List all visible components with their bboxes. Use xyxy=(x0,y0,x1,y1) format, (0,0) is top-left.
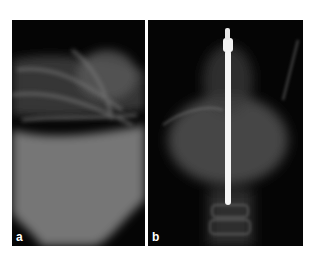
spinal-rod xyxy=(225,50,231,205)
panel-label-b: b xyxy=(152,231,159,243)
panel-label-a: a xyxy=(16,231,23,243)
radiograph-panel-b: b xyxy=(148,20,303,246)
xray-image-b xyxy=(148,20,303,246)
xray-image-a xyxy=(12,20,145,246)
rod-cap-icon xyxy=(223,38,233,52)
radiograph-panel-a: a xyxy=(12,20,145,246)
